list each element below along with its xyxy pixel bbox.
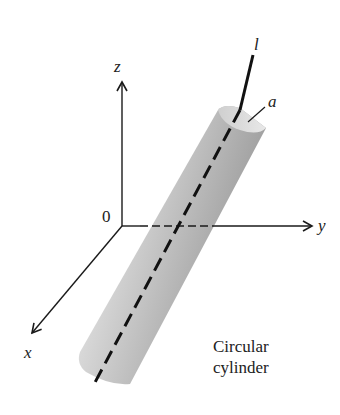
y-axis-label: y [316,216,326,235]
radius-label: a [268,92,277,111]
caption-line2: cylinder [213,358,269,377]
z-axis-label: z [113,57,121,76]
origin-label: 0 [102,207,111,226]
radius-leader [248,107,265,122]
cylinder-diagram: z y x 0 l a Circular cylinder [0,0,340,415]
line-l-label: l [254,35,259,54]
x-axis-label: x [23,343,32,362]
caption-line1: Circular [213,337,269,356]
line-l-top [240,55,253,110]
